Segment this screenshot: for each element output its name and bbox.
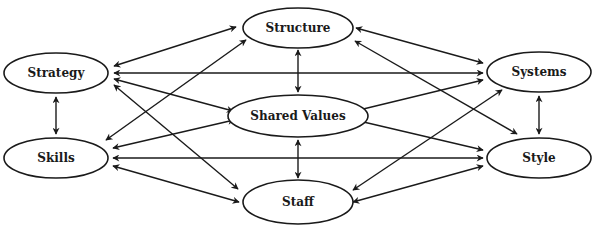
label-skills: Skills	[37, 151, 75, 165]
diagram-nodes: StrategyStructureSystemsShared ValuesSki…	[4, 8, 591, 224]
arrow-strategy-staff	[114, 85, 238, 189]
node-staff: Staff	[243, 180, 353, 224]
seven-s-diagram: StrategyStructureSystemsShared ValuesSki…	[0, 0, 596, 234]
arrow-skills-shared-values	[113, 120, 234, 148]
node-structure: Structure	[243, 8, 353, 48]
node-strategy: Strategy	[4, 53, 108, 93]
arrow-skills-structure	[106, 40, 246, 140]
node-shared-values: Shared Values	[228, 95, 368, 137]
node-style: Style	[487, 138, 591, 178]
arrow-shared-values-systems	[355, 80, 483, 111]
label-staff: Staff	[282, 195, 315, 209]
label-shared-values: Shared Values	[250, 109, 346, 123]
arrow-staff-style	[353, 166, 483, 202]
arrow-staff-systems	[353, 90, 502, 190]
label-structure: Structure	[266, 21, 331, 35]
arrow-skills-staff	[113, 166, 239, 202]
node-systems: Systems	[487, 52, 591, 92]
label-style: Style	[522, 151, 556, 165]
arrow-structure-systems	[356, 28, 483, 63]
label-systems: Systems	[511, 65, 566, 79]
arrow-structure-style	[355, 41, 517, 134]
arrow-strategy-shared-values	[114, 79, 233, 111]
node-skills: Skills	[4, 138, 108, 178]
label-strategy: Strategy	[28, 66, 86, 80]
